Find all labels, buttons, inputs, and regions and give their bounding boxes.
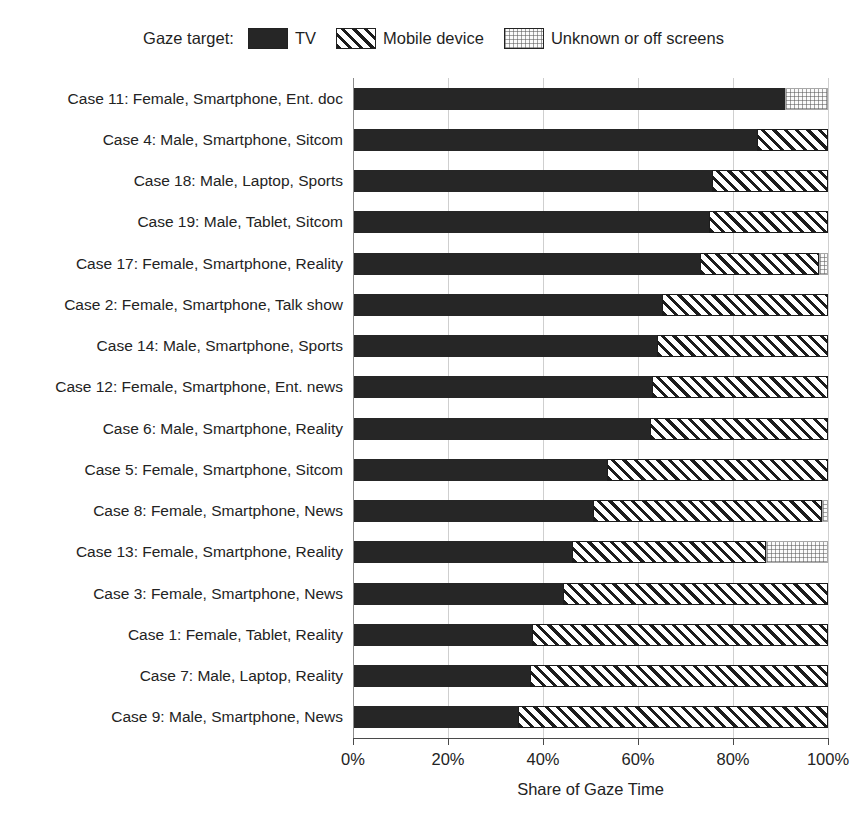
legend-entry-tv: TV	[248, 28, 316, 49]
x-axis-tick-label: 0%	[341, 750, 365, 769]
legend-label-tv: TV	[295, 29, 316, 48]
bar-segment-mobile[interactable]	[662, 294, 828, 316]
legend-swatch-tv-icon	[248, 28, 288, 49]
x-axis-title: Share of Gaze Time	[353, 780, 828, 799]
bar-segment-mobile[interactable]	[652, 376, 828, 398]
legend-label-unknown: Unknown or off screens	[551, 29, 724, 48]
bar-row[interactable]	[353, 624, 828, 646]
bar-segment-mobile[interactable]	[563, 583, 828, 605]
x-axis-tick-label: 20%	[431, 750, 464, 769]
y-axis-category-label: Case 2: Female, Smartphone, Talk show	[13, 297, 343, 313]
x-axis-line	[353, 738, 829, 739]
bar-segment-tv[interactable]	[353, 624, 532, 646]
bar-segment-tv[interactable]	[353, 294, 662, 316]
y-axis-category-label: Case 6: Male, Smartphone, Reality	[13, 421, 343, 437]
x-axis-tick	[543, 738, 544, 745]
bar-segment-unknown[interactable]	[785, 88, 828, 110]
y-axis-category-label: Case 3: Female, Smartphone, News	[13, 586, 343, 602]
bar-row[interactable]	[353, 170, 828, 192]
bar-row[interactable]	[353, 583, 828, 605]
y-axis-category-label: Case 4: Male, Smartphone, Sitcom	[13, 132, 343, 148]
bar-row[interactable]	[353, 500, 828, 522]
legend-entry-mobile: Mobile device	[336, 28, 484, 49]
bar-row[interactable]	[353, 376, 828, 398]
bar-segment-tv[interactable]	[353, 500, 593, 522]
y-axis-category-label: Case 19: Male, Tablet, Sitcom	[13, 214, 343, 230]
stacked-bar-chart: Gaze target: TV Mobile device Unknown or…	[0, 0, 867, 829]
x-axis-tick	[733, 738, 734, 745]
bar-row[interactable]	[353, 706, 828, 728]
bar-segment-mobile[interactable]	[532, 624, 828, 646]
bar-segment-tv[interactable]	[353, 418, 650, 440]
bar-segment-mobile[interactable]	[593, 500, 822, 522]
bar-row[interactable]	[353, 294, 828, 316]
bar-row[interactable]	[353, 129, 828, 151]
x-axis-tick	[638, 738, 639, 745]
y-axis-category-label: Case 1: Female, Tablet, Reality	[13, 627, 343, 643]
bar-segment-unknown[interactable]	[766, 541, 828, 563]
bar-row[interactable]	[353, 211, 828, 233]
bar-row[interactable]	[353, 335, 828, 357]
y-axis-category-label: Case 11: Female, Smartphone, Ent. doc	[13, 91, 343, 107]
y-axis-line	[353, 78, 354, 738]
x-axis-tick-label: 40%	[526, 750, 559, 769]
x-axis-tick-label: 80%	[716, 750, 749, 769]
chart-legend: Gaze target: TV Mobile device Unknown or…	[0, 28, 867, 49]
y-axis-category-label: Case 13: Female, Smartphone, Reality	[13, 544, 343, 560]
bar-row[interactable]	[353, 665, 828, 687]
bar-segment-tv[interactable]	[353, 583, 563, 605]
y-axis-category-labels: Case 11: Female, Smartphone, Ent. docCas…	[13, 78, 343, 738]
bar-segment-tv[interactable]	[353, 211, 709, 233]
bar-segment-tv[interactable]	[353, 88, 785, 110]
bar-segment-tv[interactable]	[353, 706, 518, 728]
bar-row[interactable]	[353, 459, 828, 481]
bar-segment-tv[interactable]	[353, 459, 607, 481]
legend-swatch-unknown-icon	[504, 28, 544, 49]
x-axis-tick-label: 100%	[807, 750, 849, 769]
bar-segment-tv[interactable]	[353, 376, 652, 398]
legend-label-mobile: Mobile device	[383, 29, 484, 48]
bar-segment-tv[interactable]	[353, 541, 572, 563]
gridline-vertical	[828, 78, 829, 738]
x-axis-tick-label: 60%	[621, 750, 654, 769]
y-axis-category-label: Case 7: Male, Laptop, Reality	[13, 668, 343, 684]
bar-segment-mobile[interactable]	[650, 418, 828, 440]
bar-segment-unknown[interactable]	[822, 500, 828, 522]
bar-segment-mobile[interactable]	[518, 706, 828, 728]
bar-segment-mobile[interactable]	[700, 253, 819, 275]
y-axis-category-label: Case 14: Male, Smartphone, Sports	[13, 338, 343, 354]
bar-segment-mobile[interactable]	[709, 211, 828, 233]
y-axis-category-label: Case 8: Female, Smartphone, News	[13, 503, 343, 519]
bar-segment-mobile[interactable]	[712, 170, 828, 192]
x-axis-tick	[353, 738, 354, 745]
legend-swatch-mobile-icon	[336, 28, 376, 49]
bar-row[interactable]	[353, 418, 828, 440]
legend-entry-unknown: Unknown or off screens	[504, 28, 724, 49]
plot-area	[353, 78, 828, 738]
y-axis-category-label: Case 5: Female, Smartphone, Sitcom	[13, 462, 343, 478]
bar-segment-mobile[interactable]	[607, 459, 828, 481]
bar-segment-mobile[interactable]	[657, 335, 828, 357]
x-axis-tick	[828, 738, 829, 745]
bar-row[interactable]	[353, 88, 828, 110]
y-axis-category-label: Case 17: Female, Smartphone, Reality	[13, 256, 343, 272]
bar-segment-mobile[interactable]	[757, 129, 828, 151]
bar-segment-tv[interactable]	[353, 335, 657, 357]
bar-segment-unknown[interactable]	[819, 253, 829, 275]
bar-segment-mobile[interactable]	[572, 541, 767, 563]
bar-segment-mobile[interactable]	[530, 665, 828, 687]
bar-segment-tv[interactable]	[353, 665, 530, 687]
y-axis-category-label: Case 18: Male, Laptop, Sports	[13, 173, 343, 189]
y-axis-category-label: Case 12: Female, Smartphone, Ent. news	[13, 379, 343, 395]
bar-segment-tv[interactable]	[353, 253, 700, 275]
bar-row[interactable]	[353, 541, 828, 563]
bar-row[interactable]	[353, 253, 828, 275]
legend-title: Gaze target:	[143, 29, 234, 48]
bar-segment-tv[interactable]	[353, 170, 712, 192]
bar-segment-tv[interactable]	[353, 129, 757, 151]
y-axis-category-label: Case 9: Male, Smartphone, News	[13, 709, 343, 725]
x-axis-tick	[448, 738, 449, 745]
